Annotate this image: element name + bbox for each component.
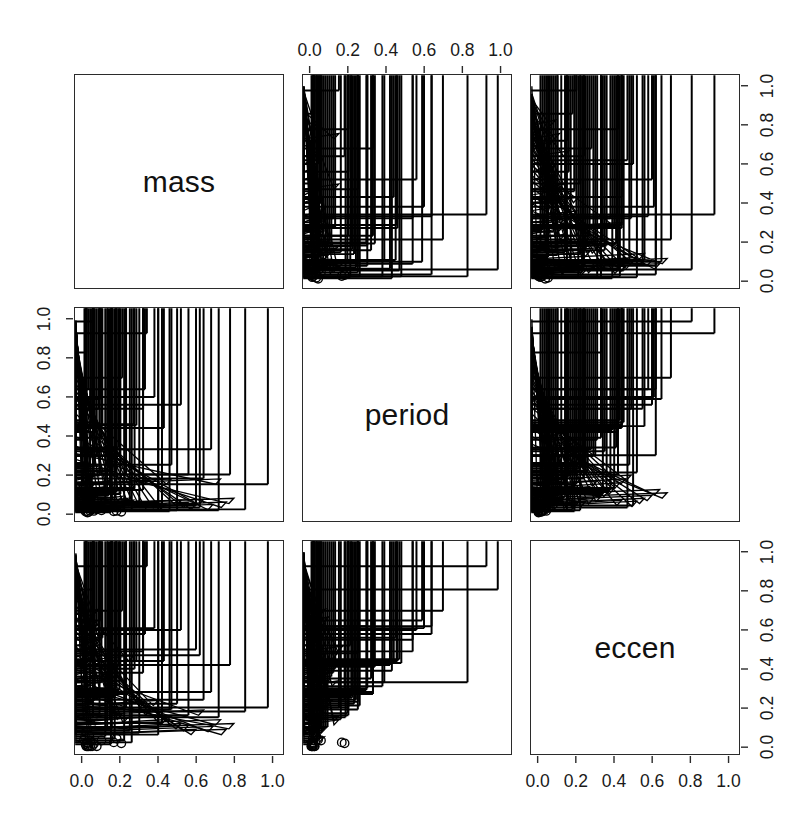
axis-tick-label-top: 1.0 bbox=[488, 40, 512, 61]
scatter-points-layer bbox=[75, 308, 283, 521]
axis-tick-label-right: 1.0 bbox=[757, 540, 778, 564]
axis-tick-label-right: 0.6 bbox=[757, 152, 778, 176]
diagonal-panel-mass: mass bbox=[74, 74, 284, 289]
axis-tick-label-left: 0.6 bbox=[34, 385, 55, 409]
axis-tick-label-bottom: 0.8 bbox=[678, 771, 702, 792]
axis-tick-label-bottom: 0.4 bbox=[146, 771, 170, 792]
axis-tick-label-right: 0.4 bbox=[757, 191, 778, 215]
axis-tick-label-right: 1.0 bbox=[757, 74, 778, 98]
scatter-points-layer bbox=[303, 541, 511, 754]
scatter-points-layer bbox=[75, 541, 283, 754]
axis-tick-label-top: 0.8 bbox=[450, 40, 474, 61]
axis-ticks-bottom-col3 bbox=[530, 756, 740, 763]
axis-tick-label-top: 0.2 bbox=[336, 40, 360, 61]
scatter-points-layer bbox=[531, 308, 739, 521]
axis-tick-label-bottom: 0.6 bbox=[184, 771, 208, 792]
axis-ticks-right-row1 bbox=[741, 74, 748, 289]
diagonal-label-mass: mass bbox=[75, 165, 283, 199]
axis-tick-label-bottom: 1.0 bbox=[260, 771, 284, 792]
axis-ticks-top-col2 bbox=[302, 66, 512, 73]
axis-tick-label-bottom: 0.8 bbox=[222, 771, 246, 792]
axis-tick-label-right: 0.8 bbox=[757, 579, 778, 603]
scatterplot-matrix: massperiodeccen0.00.20.40.60.81.00.00.20… bbox=[0, 0, 811, 825]
axis-tick-label-top: 0.6 bbox=[412, 40, 436, 61]
axis-tick-label-right: 0.4 bbox=[757, 657, 778, 681]
axis-tick-label-right: 0.8 bbox=[757, 113, 778, 137]
axis-tick-label-bottom: 0.2 bbox=[564, 771, 588, 792]
axis-tick-label-bottom: 0.0 bbox=[69, 771, 93, 792]
scatter-panel-mass-vs-period bbox=[302, 74, 512, 289]
axis-ticks-bottom-col1 bbox=[74, 756, 284, 763]
axis-tick-label-left: 0.8 bbox=[34, 346, 55, 370]
axis-tick-label-bottom: 0.4 bbox=[602, 771, 626, 792]
axis-tick-label-left: 0.0 bbox=[34, 502, 55, 526]
diagonal-panel-eccen: eccen bbox=[530, 540, 740, 755]
axis-tick-label-top: 0.0 bbox=[297, 40, 321, 61]
scatter-panel-period-vs-eccen bbox=[530, 307, 740, 522]
axis-ticks-left-row2 bbox=[66, 307, 73, 522]
axis-tick-label-bottom: 0.2 bbox=[108, 771, 132, 792]
diagonal-label-eccen: eccen bbox=[531, 631, 739, 665]
scatter-panel-mass-vs-eccen bbox=[530, 74, 740, 289]
axis-tick-label-right: 0.0 bbox=[757, 735, 778, 759]
axis-tick-label-bottom: 0.6 bbox=[640, 771, 664, 792]
axis-ticks-right-row3 bbox=[741, 540, 748, 755]
axis-tick-label-right: 0.2 bbox=[757, 696, 778, 720]
scatter-panel-eccen-vs-period bbox=[302, 540, 512, 755]
axis-tick-label-top: 0.4 bbox=[374, 40, 398, 61]
diagonal-panel-period: period bbox=[302, 307, 512, 522]
axis-tick-label-bottom: 1.0 bbox=[716, 771, 740, 792]
scatter-points-layer bbox=[303, 75, 511, 288]
scatter-panel-eccen-vs-mass bbox=[74, 540, 284, 755]
axis-tick-label-left: 1.0 bbox=[34, 307, 55, 331]
axis-tick-label-right: 0.0 bbox=[757, 269, 778, 293]
axis-tick-label-bottom: 0.0 bbox=[525, 771, 549, 792]
axis-tick-label-left: 0.4 bbox=[34, 424, 55, 448]
scatter-points-layer bbox=[531, 75, 739, 288]
diagonal-label-period: period bbox=[303, 398, 511, 432]
scatter-panel-period-vs-mass bbox=[74, 307, 284, 522]
axis-tick-label-right: 0.2 bbox=[757, 230, 778, 254]
axis-tick-label-left: 0.2 bbox=[34, 463, 55, 487]
axis-tick-label-right: 0.6 bbox=[757, 618, 778, 642]
